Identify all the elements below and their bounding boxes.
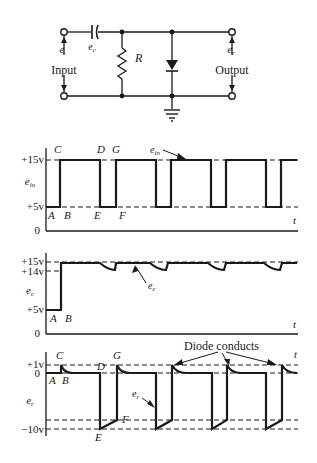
point-D: D [96,360,105,372]
input-square-wave [46,160,297,207]
tick-0: 0 [35,367,41,379]
tick-5v: +5v [27,303,45,315]
input-terminal-bottom [61,93,67,99]
clamper-circuit: e Input ec R [51,25,249,121]
curve-label-ec: ec [148,280,156,293]
curve-label-ein: ein [150,144,160,157]
capacitor-icon [92,25,98,39]
point-B: B [62,374,69,386]
point-G: G [112,143,120,155]
capacitor-voltage-graph: +15v +14v +5v 0 ec A B ec t [21,253,298,339]
point-C: C [56,349,64,361]
x-axis-label-t: t [293,214,297,226]
point-C: C [54,143,62,155]
output-label: Output [215,63,249,77]
point-E: E [93,209,101,221]
point-F: F [121,413,129,425]
output-voltage-curve [46,365,297,429]
point-F: F [118,209,126,221]
x-axis-label-t: t [293,318,297,330]
tick-15v: +15v [21,153,44,165]
y-axis-label-ec: ec [26,284,35,298]
tick-14v: +14v [21,265,44,277]
input-waveform-graph: +15v +5v 0 ein C D G A B E F ein t [21,143,298,236]
clamper-circuit-figure: e Input ec R [0,0,317,463]
arrow-icon [147,400,155,408]
point-B: B [64,209,71,221]
diode-conducts-annotation: Diode conducts [184,339,259,353]
input-symbol: e [60,43,65,55]
input-terminal-top [61,29,67,35]
point-A: A [49,312,57,324]
point-G: G [113,349,121,361]
curve-label-er: er [132,388,139,401]
tick-minus10v: −10v [21,423,44,435]
resistor-label: R [134,51,143,65]
tick-5v: +5v [27,200,45,212]
capacitor-voltage-label: ec [88,41,96,54]
input-label: Input [51,63,77,77]
output-terminal-bottom [229,93,235,99]
point-A: A [47,209,55,221]
point-B: B [65,312,72,324]
capacitor-voltage-curve [46,263,297,310]
y-axis-label-er: er [26,394,34,408]
tick-0: 0 [35,224,41,236]
diode-conducts-arrows [174,352,277,366]
point-E: E [94,431,102,443]
point-A: A [48,374,56,386]
output-voltage-graph: +1v 0 −10v er C G D A B E F er Diode con… [21,339,298,443]
point-D: D [96,143,105,155]
arrow-icon [177,153,186,159]
output-terminal-top [229,29,235,35]
y-axis-label-ein: ein [25,175,36,189]
tick-0: 0 [35,327,41,339]
output-symbol: er [227,43,235,57]
diode-icon [166,60,178,71]
resistor-icon [118,48,126,79]
x-axis-label-t: t [294,348,298,360]
ground-icon [164,96,180,121]
